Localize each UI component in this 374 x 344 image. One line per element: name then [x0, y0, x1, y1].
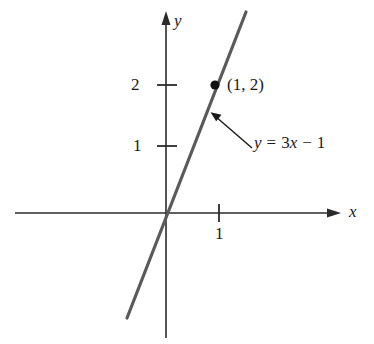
x-axis-arrowhead	[327, 209, 341, 218]
x-axis-label: x	[349, 203, 357, 220]
y-axis-tick-label-2: 2	[131, 76, 140, 93]
x-axis	[15, 204, 341, 222]
equation-operator: −	[302, 133, 312, 152]
coordinate-plane-svg	[0, 0, 374, 344]
y-axis-arrowhead	[162, 11, 171, 25]
y-axis	[157, 11, 177, 338]
y-axis-label: y	[174, 12, 182, 29]
y-axis-tick-label-1: 1	[133, 137, 142, 154]
x-axis-tick-label-1: 1	[215, 225, 224, 242]
leader-line	[215, 116, 252, 148]
equation-leader-arrow	[211, 112, 253, 148]
plot-line-y-equals-3x-minus-1	[127, 12, 246, 318]
equation-constant: 1	[317, 133, 326, 152]
graph-figure: y x 2 1 1 (1, 2) y=3x−1	[0, 0, 374, 344]
equation-equals-sign: =	[267, 133, 277, 152]
equation-label: y=3x−1	[254, 134, 325, 151]
point-coordinate-label: (1, 2)	[227, 76, 264, 93]
equation-lhs: y	[254, 133, 262, 152]
equation-variable: x	[290, 133, 298, 152]
data-point-1-2	[210, 80, 219, 89]
equation-coefficient: 3	[281, 133, 290, 152]
